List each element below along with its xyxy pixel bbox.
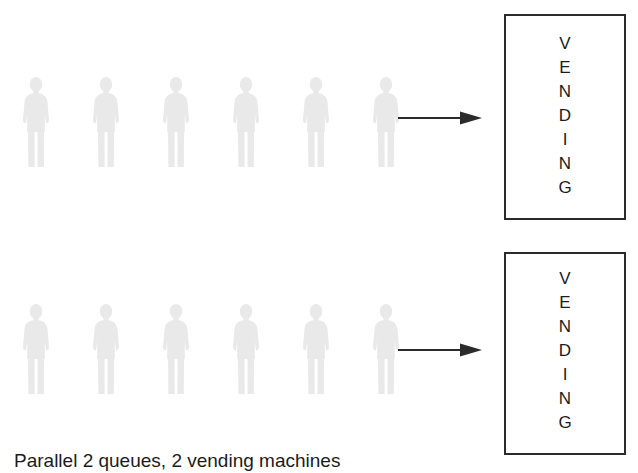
vending-machine-box: V E N D I N G bbox=[504, 252, 626, 455]
person-icon bbox=[298, 76, 334, 168]
person-icon bbox=[298, 303, 334, 395]
vending-letter: N bbox=[559, 387, 571, 411]
vending-letter: N bbox=[559, 152, 571, 176]
diagram-canvas: V E N D I N G V E N D I N G Parallel 2 q… bbox=[0, 0, 638, 473]
person-icon bbox=[158, 76, 194, 168]
person-icon bbox=[228, 303, 264, 395]
vending-letter: I bbox=[563, 128, 568, 152]
vending-letter: G bbox=[558, 176, 571, 200]
vending-machine-label: V E N D I N G bbox=[558, 32, 571, 200]
person-icon bbox=[88, 303, 124, 395]
vending-letter: D bbox=[559, 339, 571, 363]
vending-letter: E bbox=[559, 56, 570, 80]
flow-arrow-icon bbox=[398, 111, 482, 125]
vending-letter: G bbox=[558, 411, 571, 435]
person-icon bbox=[88, 76, 124, 168]
queue-row-top bbox=[18, 76, 404, 168]
flow-arrow-icon bbox=[398, 343, 482, 357]
vending-letter: I bbox=[563, 363, 568, 387]
person-icon bbox=[18, 303, 54, 395]
vending-letter: E bbox=[559, 291, 570, 315]
diagram-caption: Parallel 2 queues, 2 vending machines bbox=[14, 450, 340, 472]
person-icon bbox=[18, 76, 54, 168]
vending-letter: V bbox=[559, 267, 570, 291]
vending-machine-label: V E N D I N G bbox=[558, 267, 571, 435]
vending-letter: D bbox=[559, 104, 571, 128]
vending-machine-box: V E N D I N G bbox=[504, 14, 626, 220]
vending-letter: N bbox=[559, 80, 571, 104]
queue-row-bottom bbox=[18, 303, 404, 395]
person-icon bbox=[228, 76, 264, 168]
vending-letter: V bbox=[559, 32, 570, 56]
person-icon bbox=[158, 303, 194, 395]
vending-letter: N bbox=[559, 315, 571, 339]
